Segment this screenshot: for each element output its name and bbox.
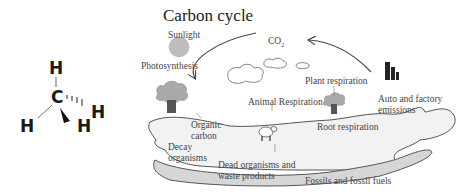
decay-line2: organisms — [168, 153, 207, 163]
co2-subscript: 2 — [281, 42, 284, 48]
label-decay-organisms: Decayorganisms — [168, 142, 207, 164]
label-fossils: Fossils and fossil fuels — [305, 176, 391, 187]
label-auto-emissions: Auto and factoryemissions — [378, 94, 442, 116]
organic-carbon-line1: Organic — [191, 120, 221, 130]
label-organic-carbon: Organiccarbon — [191, 120, 221, 142]
label-plant-respiration: Plant respiration — [305, 76, 368, 87]
auto-emissions-line2: emissions — [378, 105, 415, 115]
organic-carbon-line2: carbon — [191, 131, 217, 141]
dead-organisms-line2: waste products — [218, 171, 275, 181]
arrow-from-emissions — [309, 40, 371, 72]
auto-emissions-line1: Auto and factory — [378, 94, 442, 104]
dead-organisms-line1: Dead organisms and — [218, 160, 295, 170]
tree-icon-right — [323, 93, 345, 114]
carbon-cycle-diagram: Carbon cycle Sunlight Photosynthesis CO2… — [0, 0, 461, 196]
arrow-organic-carbon — [196, 113, 201, 118]
label-dead-organisms: Dead organisms andwaste products — [218, 160, 295, 182]
label-co2: CO2 — [268, 36, 284, 49]
cloud-icon — [228, 58, 309, 83]
label-sunlight: Sunlight — [168, 30, 200, 41]
tree-icon — [156, 81, 187, 113]
co2-text: CO — [268, 36, 281, 46]
label-animal-respiration: Animal Respiration — [248, 97, 323, 108]
diagram-title: Carbon cycle — [163, 6, 253, 26]
label-photosynthesis: Photosynthesis — [141, 61, 198, 72]
factory-icon — [385, 62, 399, 80]
decay-line1: Decay — [168, 142, 192, 152]
label-root-respiration: Root respiration — [317, 122, 378, 133]
